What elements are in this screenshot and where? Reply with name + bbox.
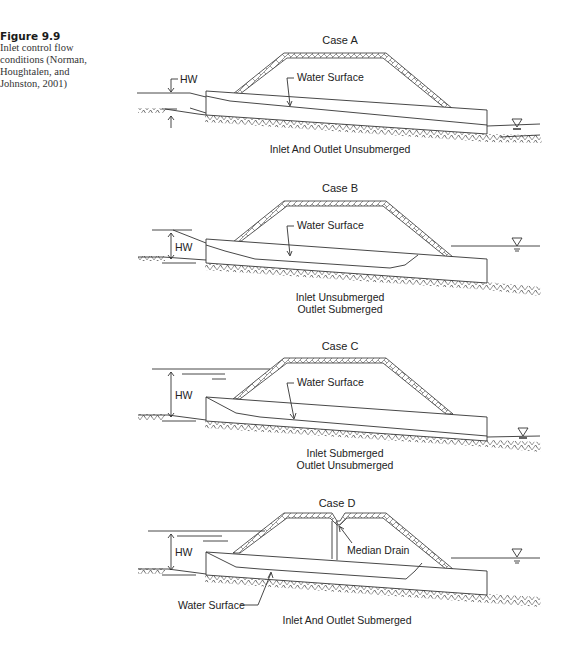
hw-arrow-top [168,82,174,92]
case-title: Case B [322,182,358,194]
water-surface-label: Water Surface [178,599,245,611]
hw-arrow [168,233,174,259]
hw-label: HW [175,389,193,401]
case-title: Case C [322,340,359,352]
case-b: Case B HW Water Surface Inlet Unsubmerge… [138,182,541,315]
case-title: Case D [319,497,356,509]
case-a: Case A HW Water Surface Inlet And Outlet… [137,34,542,155]
hw-label: HW [175,241,193,253]
water-surface-label: Water Surface [297,219,364,231]
condition-label: Inlet Submerged [306,447,383,459]
water-level-symbol [512,238,522,246]
median-drain-label: Median Drain [347,544,410,556]
water-surface-label: Water Surface [297,376,364,388]
water-level-symbol [512,119,522,127]
hw-arrow [168,534,174,570]
case-d: Case D HW Median Drain Water Surface Inl… [138,497,541,626]
hw-label: HW [180,73,198,85]
condition-label: Outlet Unsubmerged [297,459,394,471]
condition-label: Inlet And Outlet Unsubmerged [270,143,411,155]
water-level-symbol [518,428,528,436]
condition-label: Inlet Unsubmerged [296,291,385,303]
water-level-symbol [512,549,522,557]
water-surface-label: Water Surface [297,71,364,83]
hw-arrow [168,372,174,417]
case-title: Case A [322,34,358,46]
case-c: Case C HW Water Surface Inlet Submerged … [138,340,541,471]
hw-arrow-bottom [168,116,174,128]
hw-label: HW [175,546,193,558]
culvert-diagram: Case A HW Water Surface Inlet And Outlet… [0,0,570,654]
ground-hatch [138,108,165,113]
condition-label: Outlet Submerged [297,303,382,315]
condition-label: Inlet And Outlet Submerged [283,614,412,626]
median-drain [332,521,337,560]
